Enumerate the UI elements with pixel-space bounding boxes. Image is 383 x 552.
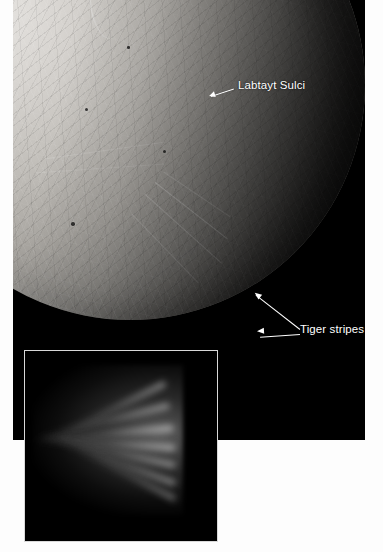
inset-plume-image xyxy=(24,350,218,542)
tiger-stripe-groove xyxy=(144,193,222,263)
tiger-stripes-leader-line-lower xyxy=(260,334,300,338)
surface-fracture-texture xyxy=(13,0,365,320)
tiger-stripes-arrowhead-lower xyxy=(257,328,264,334)
enceladus-disc xyxy=(13,0,365,320)
annotation-labtayt-sulci: Labtayt Sulci xyxy=(238,79,305,91)
limb-highlight xyxy=(13,0,365,320)
tiger-stripe-groove xyxy=(35,163,165,173)
annotation-tiger-stripes: Tiger stripes xyxy=(300,323,364,335)
crater xyxy=(127,46,130,49)
crater xyxy=(85,108,88,111)
tiger-stripes-leader-line-upper xyxy=(256,295,301,330)
tiger-stripe-groove xyxy=(154,182,227,240)
labtayt-sulci-canyon-lower xyxy=(77,0,143,42)
crater xyxy=(71,222,75,226)
tiger-stripe-groove xyxy=(131,214,199,284)
tiger-stripe-groove xyxy=(46,142,165,160)
surface-fracture-texture-secondary xyxy=(13,0,365,320)
tiger-stripe-groove xyxy=(164,172,231,218)
figure-page: Labtayt Sulci Tiger stripes xyxy=(0,0,383,552)
crater xyxy=(163,150,166,153)
